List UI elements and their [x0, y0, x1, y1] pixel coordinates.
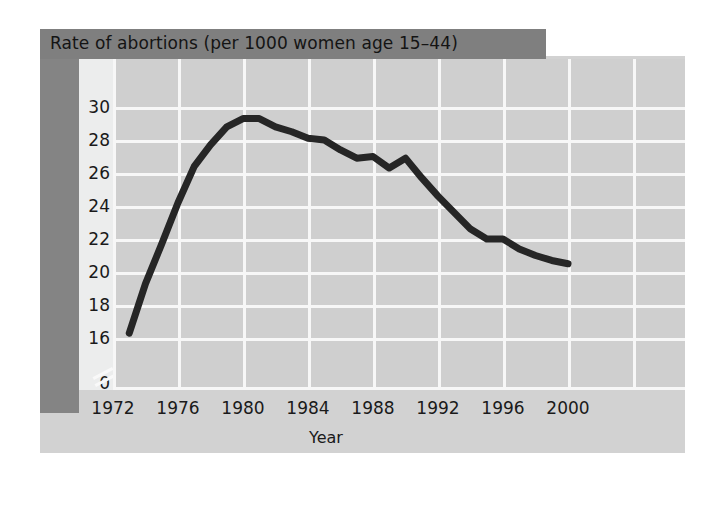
x-tick-label: 1984 — [278, 398, 338, 418]
y-tick-label: 30 — [88, 99, 110, 116]
left-spine-band — [40, 29, 79, 413]
x-tick-label: 2000 — [538, 398, 598, 418]
x-axis-title: Year — [309, 428, 343, 447]
x-tick-label: 1988 — [343, 398, 403, 418]
chart-title-banner: Rate of abortions (per 1000 women age 15… — [40, 29, 546, 59]
series-line-chart — [113, 59, 685, 390]
x-tick-label: 1980 — [213, 398, 273, 418]
y-tick-label: 22 — [88, 231, 110, 248]
x-tick-label: 1972 — [83, 398, 143, 418]
y-axis-label-column: 30 28 26 24 22 20 18 16 0 — [79, 59, 113, 390]
y-tick-label: 24 — [88, 198, 110, 215]
chart-title: Rate of abortions (per 1000 women age 15… — [50, 33, 458, 53]
chart-figure: Rate of abortions (per 1000 women age 15… — [0, 0, 712, 506]
y-tick-label: 16 — [88, 330, 110, 347]
x-tick-label: 1976 — [148, 398, 208, 418]
plot-area — [113, 59, 685, 390]
x-tick-label: 1992 — [408, 398, 468, 418]
y-tick-label: 26 — [88, 165, 110, 182]
x-axis-title-container: Year — [0, 428, 712, 447]
x-tick-label: 1996 — [473, 398, 533, 418]
series-polyline — [129, 119, 568, 333]
y-tick-label: 28 — [88, 132, 110, 149]
y-tick-label: 18 — [88, 297, 110, 314]
y-tick-label: 20 — [88, 264, 110, 281]
